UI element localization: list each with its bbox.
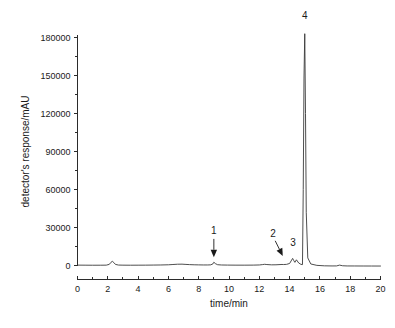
- y-axis-title: detector's response/mAU: [20, 96, 31, 208]
- y-tick-label: 60000: [45, 185, 70, 195]
- peak-label-4: 4: [302, 10, 308, 21]
- peak-arrow-line-2: [275, 241, 279, 249]
- x-tick-label: 20: [375, 284, 385, 294]
- peak-label-1: 1: [211, 225, 217, 236]
- peak-arrow-head-1: [211, 250, 217, 257]
- peak-label-3: 3: [290, 237, 296, 248]
- y-tick-label: 120000: [40, 109, 70, 119]
- y-axis-ticks: 0300006000090000120000150000180000: [40, 33, 77, 271]
- y-tick-label: 0: [65, 261, 70, 271]
- x-tick-label: 18: [345, 284, 355, 294]
- peak-annotations: 1234: [211, 10, 308, 258]
- x-tick-label: 14: [285, 284, 295, 294]
- x-tick-label: 12: [254, 284, 264, 294]
- x-tick-label: 8: [196, 284, 201, 294]
- x-tick-label: 2: [105, 284, 110, 294]
- y-tick-label: 30000: [45, 223, 70, 233]
- x-tick-label: 10: [224, 284, 234, 294]
- x-axis-ticks: 02468101214161820: [75, 276, 386, 294]
- y-tick-label: 150000: [40, 71, 70, 81]
- chromatogram-trace: [78, 34, 381, 266]
- y-tick-label: 180000: [40, 33, 70, 43]
- plot-area: 0300006000090000120000150000180000024681…: [20, 10, 386, 309]
- x-tick-label: 0: [75, 284, 80, 294]
- chromatogram-figure: 0300006000090000120000150000180000024681…: [0, 0, 395, 328]
- x-tick-label: 6: [166, 284, 171, 294]
- peak-label-2: 2: [270, 228, 276, 239]
- x-tick-label: 4: [136, 284, 141, 294]
- y-tick-label: 90000: [45, 147, 70, 157]
- x-axis-title: time/min: [210, 298, 248, 309]
- chromatogram-plot: 0300006000090000120000150000180000024681…: [0, 0, 395, 328]
- x-tick-label: 16: [315, 284, 325, 294]
